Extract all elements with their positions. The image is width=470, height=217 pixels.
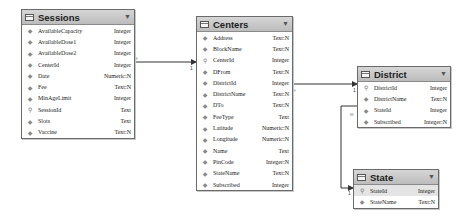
field-row[interactable]: ◆DToText:N [197, 100, 292, 111]
field-type: Integer [430, 107, 447, 113]
field-row[interactable]: ⚲CenterIdInteger [197, 55, 292, 66]
field-row[interactable]: ◆AvailableDose2Integer [22, 48, 134, 59]
field-name: CenterId [213, 57, 272, 63]
field-type: Integer:N [424, 119, 447, 125]
field-row[interactable]: ◆DistrictNameText:N [197, 88, 292, 99]
field-type: Text [278, 114, 289, 120]
field-type: Integer [114, 39, 131, 45]
field-name: Date [38, 73, 104, 79]
field-diamond-icon: ◆ [26, 129, 34, 136]
field-row[interactable]: ◆SlotsText [22, 115, 134, 126]
field-diamond-icon: ◆ [201, 125, 209, 132]
field-diamond-icon: ◆ [362, 107, 370, 114]
field-list: ◆AvailableCapacityInteger◆AvailableDose1… [22, 25, 134, 138]
field-type: Numeric:N [262, 136, 289, 142]
field-name: Fee [38, 84, 114, 90]
field-diamond-icon: ◆ [201, 68, 209, 75]
svg-text:1: 1 [190, 65, 193, 71]
field-row[interactable]: ◆CenterIdInteger [22, 59, 134, 70]
field-name: PinCode [213, 159, 266, 165]
field-row[interactable]: ◆MinAgeLimitInteger [22, 93, 134, 104]
field-row[interactable]: ◆StateNameText:N [197, 168, 292, 179]
field-name: DistrictId [374, 85, 430, 91]
chevron-down-icon[interactable]: ▼ [440, 70, 447, 78]
field-type: Text:N [114, 84, 131, 90]
field-type: Integer:N [266, 159, 289, 165]
field-row[interactable]: ◆NameText [197, 145, 292, 156]
field-type: Integer [272, 80, 289, 86]
field-name: StateId [374, 107, 430, 113]
field-type: Integer [418, 188, 435, 194]
table-icon [361, 71, 370, 78]
field-diamond-icon: ◆ [362, 118, 370, 125]
field-row[interactable]: ◆StateIdInteger [358, 105, 450, 116]
field-row[interactable]: ◆LatitudeNumeric:N [197, 122, 292, 133]
field-name: CenterId [38, 62, 114, 68]
field-row[interactable]: ◆AvailableDose1Integer [22, 36, 134, 47]
field-row[interactable]: ◆AvailableCapacityInteger [22, 25, 134, 36]
entity-district[interactable]: District ▼ ⚲DistrictIdInteger◆DistrictNa… [357, 66, 451, 128]
field-row[interactable]: ◆LongitudeNumeric:N [197, 134, 292, 145]
svg-text:1: 1 [348, 190, 351, 196]
entity-header[interactable]: Sessions ▼ [22, 10, 134, 25]
field-diamond-icon: ◆ [201, 79, 209, 86]
field-name: Subscribed [374, 119, 424, 125]
field-diamond-icon: ◆ [26, 84, 34, 91]
field-list: ⚲DistrictIdInteger◆DistrictNameText:N◆St… [358, 82, 450, 127]
field-row[interactable]: ◆DFromText:N [197, 66, 292, 77]
field-row[interactable]: ◆FeeTypeText [197, 111, 292, 122]
field-name: BlockName [213, 46, 272, 52]
entity-sessions[interactable]: Sessions ▼ ◆AvailableCapacityInteger◆Ava… [21, 9, 135, 139]
key-icon: ⚲ [358, 187, 366, 194]
field-name: Slots [38, 118, 120, 124]
field-type: Integer [114, 62, 131, 68]
field-row[interactable]: ◆DistrictIdInteger [197, 77, 292, 88]
chevron-down-icon[interactable]: ▼ [124, 13, 131, 21]
entity-header[interactable]: State ▼ [354, 170, 438, 185]
field-row[interactable]: ◆AddressText:N [197, 32, 292, 43]
field-row[interactable]: ◆VaccineText:N [22, 127, 134, 138]
field-diamond-icon: ◆ [201, 170, 209, 177]
entity-header[interactable]: Centers ▼ [197, 17, 292, 32]
field-row[interactable]: ⚲StateIdInteger [354, 185, 438, 196]
field-row[interactable]: ⚲SessionIdText [22, 104, 134, 115]
chevron-down-icon[interactable]: ▼ [282, 20, 289, 28]
field-type: Integer [272, 57, 289, 63]
field-name: DTo [213, 102, 272, 108]
field-name: DistrictName [374, 96, 430, 102]
field-name: DFrom [213, 69, 272, 75]
field-row[interactable]: ◆SubscribedInteger [197, 179, 292, 190]
field-row[interactable]: ◆FeeText:N [22, 81, 134, 92]
field-diamond-icon: ◆ [26, 118, 34, 125]
field-row[interactable]: ◆PinCodeInteger:N [197, 156, 292, 167]
entity-header[interactable]: District ▼ [358, 67, 450, 82]
entity-title: Centers [213, 19, 282, 30]
field-diamond-icon: ◆ [201, 102, 209, 109]
field-name: Longitude [213, 136, 262, 142]
entity-centers[interactable]: Centers ▼ ◆AddressText:N◆BlockNameText:N… [196, 16, 293, 191]
field-row[interactable]: ◆DateNumeric:N [22, 70, 134, 81]
field-row[interactable]: ⚲DistrictIdInteger [358, 82, 450, 93]
field-row[interactable]: ◆StateNameText:N [354, 196, 438, 207]
field-type: Text:N [272, 91, 289, 97]
entity-state[interactable]: State ▼ ⚲StateIdInteger◆StateNameText:N [353, 169, 439, 209]
field-name: AvailableDose2 [38, 50, 114, 56]
entity-title: Sessions [38, 12, 124, 23]
field-type: Text:N [418, 199, 435, 205]
field-diamond-icon: ◆ [26, 61, 34, 68]
chevron-down-icon[interactable]: ▼ [428, 173, 435, 181]
field-diamond-icon: ◆ [201, 136, 209, 143]
field-row[interactable]: ◆SubscribedInteger:N [358, 116, 450, 127]
field-diamond-icon: ◆ [358, 198, 366, 205]
field-type: Numeric:N [104, 73, 131, 79]
field-diamond-icon: ◆ [201, 181, 209, 188]
field-type: Integer [114, 28, 131, 34]
field-row[interactable]: ◆DistrictNameText:N [358, 93, 450, 104]
svg-text:∞: ∞ [350, 111, 354, 117]
field-name: Vaccine [38, 129, 114, 135]
entity-title: District [374, 69, 440, 80]
field-type: Text:N [430, 96, 447, 102]
field-name: FeeType [213, 114, 278, 120]
field-type: Text:N [272, 170, 289, 176]
field-row[interactable]: ◆BlockNameText:N [197, 43, 292, 54]
